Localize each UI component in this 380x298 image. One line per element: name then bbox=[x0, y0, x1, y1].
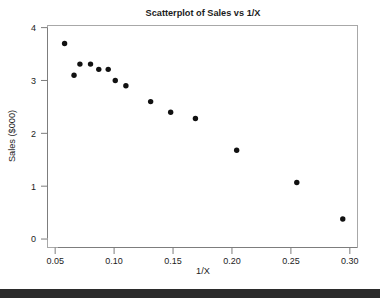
y-tick-label: 2 bbox=[31, 129, 36, 139]
x-tick-label: 0.10 bbox=[105, 256, 123, 266]
data-point bbox=[294, 180, 299, 185]
data-point bbox=[113, 78, 118, 83]
y-axis-title: Sales ($000) bbox=[7, 110, 17, 162]
data-point bbox=[123, 83, 128, 88]
bottom-bar bbox=[0, 289, 380, 298]
chart-title: Scatterplot of Sales vs 1/X bbox=[146, 8, 262, 18]
x-tick-label: 0.20 bbox=[223, 256, 241, 266]
y-tick-label: 1 bbox=[31, 182, 36, 192]
data-point bbox=[71, 72, 76, 77]
scatterplot-chart: Scatterplot of Sales vs 1/X 01234 0.050.… bbox=[0, 0, 380, 298]
y-tick-label: 3 bbox=[31, 76, 36, 86]
data-point bbox=[88, 61, 93, 66]
x-tick-label: 0.25 bbox=[282, 256, 300, 266]
figure-container: Scatterplot of Sales vs 1/X 01234 0.050.… bbox=[0, 0, 380, 298]
data-point bbox=[148, 99, 153, 104]
data-point bbox=[340, 216, 345, 221]
y-tick-label: 0 bbox=[31, 234, 36, 244]
data-point bbox=[193, 116, 198, 121]
x-tick-label: 0.15 bbox=[164, 256, 182, 266]
data-point bbox=[77, 61, 82, 66]
x-tick-label: 0.30 bbox=[341, 256, 359, 266]
x-axis-title: 1/X bbox=[196, 266, 210, 276]
data-point bbox=[96, 67, 101, 72]
data-point bbox=[62, 41, 67, 46]
data-point bbox=[168, 109, 173, 114]
y-tick-label: 4 bbox=[31, 23, 36, 33]
data-point bbox=[106, 67, 111, 72]
chart-background bbox=[0, 0, 380, 298]
data-point bbox=[234, 148, 239, 153]
x-tick-label: 0.05 bbox=[46, 256, 64, 266]
